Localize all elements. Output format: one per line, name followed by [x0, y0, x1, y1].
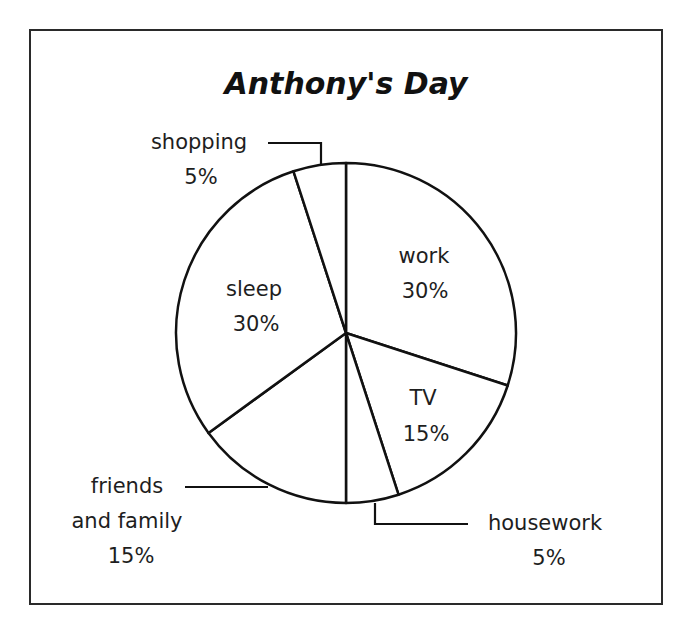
label-friends-line1: friends: [91, 474, 163, 498]
pie-chart: Anthony's Day work 30% sleep 30% TV 15% …: [0, 0, 681, 634]
label-tv: TV: [408, 386, 437, 410]
label-housework-pct: 5%: [532, 546, 565, 570]
label-shopping: shopping: [151, 130, 247, 154]
label-tv-pct: 15%: [403, 422, 450, 446]
label-work: work: [399, 244, 451, 268]
label-work-pct: 30%: [402, 279, 449, 303]
label-friends-line2: and family: [72, 509, 183, 533]
label-housework: housework: [488, 511, 603, 535]
label-sleep-pct: 30%: [233, 312, 280, 336]
label-friends-pct: 15%: [108, 544, 155, 568]
label-shopping-pct: 5%: [184, 165, 217, 189]
housework-callout-line: [375, 503, 468, 524]
shopping-callout-line: [268, 143, 321, 164]
label-sleep: sleep: [226, 277, 282, 301]
chart-title: Anthony's Day: [222, 66, 469, 101]
